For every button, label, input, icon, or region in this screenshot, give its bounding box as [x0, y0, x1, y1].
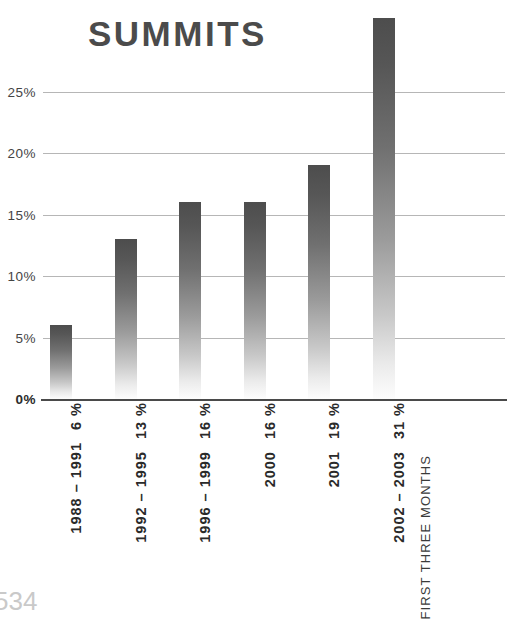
y-tick-label: 0% [15, 392, 36, 407]
bar-0 [50, 325, 72, 399]
x-axis-label-0: 1988 – 19916 % [68, 402, 84, 534]
value-label: 13 % [133, 402, 149, 439]
x-axis-labels: 1988 – 19916 %1992 – 199513 %1996 – 1999… [43, 402, 505, 592]
category-label: 2000 [262, 451, 278, 487]
gridline-10pct [43, 276, 505, 277]
y-tick-label: 5% [15, 330, 36, 345]
x-axis-label-2: 1996 – 199916 % [197, 402, 213, 543]
page-number: 534 [0, 588, 37, 614]
gridline-25pct [43, 92, 505, 93]
value-label: 19 % [326, 402, 342, 439]
x-axis-label-5: 2002 – 200331 % [391, 402, 407, 543]
value-label: 31 % [391, 402, 407, 439]
value-label: 16 % [262, 402, 278, 439]
bar-4 [308, 165, 330, 399]
plot-area [43, 85, 505, 399]
bar-3 [244, 202, 266, 399]
bar-2 [179, 202, 201, 399]
bar-1 [115, 239, 137, 399]
gridline-5pct [43, 338, 505, 339]
x-axis-label-3: 200016 % [262, 402, 278, 487]
bar-5 [373, 18, 395, 399]
gridline-0pct [41, 399, 507, 401]
y-tick-label: 10% [7, 269, 36, 284]
y-tick-label: 20% [7, 146, 36, 161]
category-label: 1996 – 1999 [197, 451, 213, 543]
value-label: 16 % [197, 402, 213, 439]
y-axis: 0%5%10%15%20%25% [0, 85, 36, 399]
category-label: 2002 – 2003 [391, 451, 407, 543]
gridline-15pct [43, 215, 505, 216]
category-label: 1988 – 1991 [68, 442, 84, 534]
x-axis-label-1: 1992 – 199513 % [133, 402, 149, 543]
footnote-first-three-months: FIRST THREE MONTHS [418, 455, 433, 620]
value-label: 6 % [68, 402, 84, 430]
y-tick-label: 15% [7, 207, 36, 222]
y-tick-label: 25% [7, 84, 36, 99]
category-label: 2001 [326, 451, 342, 487]
gridline-20pct [43, 153, 505, 154]
x-axis-label-4: 200119 % [326, 402, 342, 487]
chart-title: SUMMITS [88, 16, 267, 51]
category-label: 1992 – 1995 [133, 451, 149, 543]
